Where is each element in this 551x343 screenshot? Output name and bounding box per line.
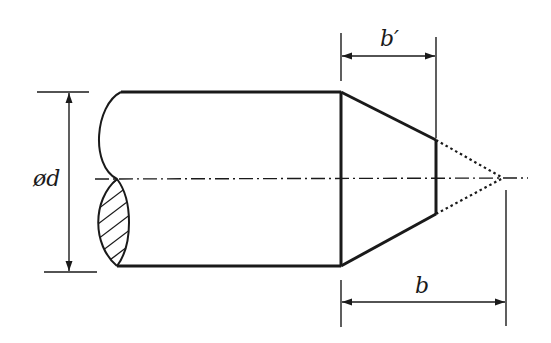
total-length-dimension <box>341 190 506 327</box>
chamfer-length-label: b′ <box>380 28 399 50</box>
centerline <box>95 178 528 179</box>
total-length-label: b <box>415 275 429 297</box>
diameter-label: ød <box>33 168 60 190</box>
phantom-cone-tip <box>436 140 503 214</box>
technical-drawing <box>0 0 551 343</box>
